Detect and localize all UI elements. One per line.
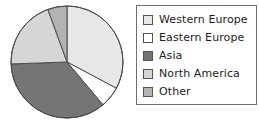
legend-item-other[interactable]: Other <box>143 83 256 101</box>
legend-label-asia: Asia <box>159 50 182 62</box>
legend-item-eastern-europe[interactable]: Eastern Europe <box>143 29 256 47</box>
legend-item-western-europe[interactable]: Western Europe <box>143 11 256 29</box>
legend-swatch-other <box>143 87 153 97</box>
legend-swatch-eastern-europe <box>143 33 153 43</box>
pie-chart-svg <box>0 0 135 125</box>
pie-chart-figure: Western Europe Eastern Europe Asia North… <box>0 0 259 125</box>
legend-item-asia[interactable]: Asia <box>143 47 256 65</box>
legend-swatch-asia <box>143 51 153 61</box>
legend-swatch-north-america <box>143 69 153 79</box>
legend-label-western-europe: Western Europe <box>159 14 248 26</box>
legend-label-eastern-europe: Eastern Europe <box>159 32 244 44</box>
legend-swatch-western-europe <box>143 15 153 25</box>
chart-legend: Western Europe Eastern Europe Asia North… <box>136 5 257 105</box>
pie-chart-plot-area <box>0 0 135 125</box>
legend-label-other: Other <box>159 86 191 98</box>
legend-label-north-america: North America <box>159 68 240 80</box>
legend-item-north-america[interactable]: North America <box>143 65 256 83</box>
